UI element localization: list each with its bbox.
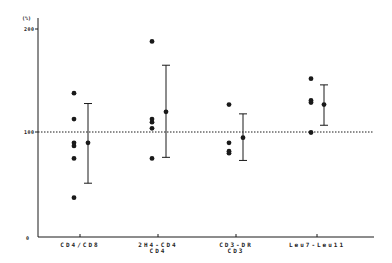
y-tick-label-0: 0 bbox=[26, 235, 30, 241]
category-label-cd3-dr-denominator: CD3 bbox=[228, 247, 245, 254]
data-point bbox=[227, 102, 232, 107]
data-point bbox=[150, 120, 155, 125]
data-point bbox=[72, 91, 77, 96]
y-tick-label-200: 200 bbox=[24, 26, 35, 32]
error-bar bbox=[239, 114, 247, 161]
mean-point bbox=[241, 135, 246, 140]
mean-point bbox=[164, 109, 169, 114]
error-bars bbox=[84, 65, 328, 183]
category-label-leu7-leu11: Leu7-Leu11 bbox=[289, 241, 345, 248]
data-point bbox=[150, 156, 155, 161]
category-label-2h4-cd4-denominator: CD4 bbox=[150, 247, 167, 254]
data-point bbox=[309, 100, 314, 105]
mean-point bbox=[86, 140, 91, 145]
data-points bbox=[72, 39, 314, 200]
data-point bbox=[72, 117, 77, 122]
mean-point bbox=[322, 102, 327, 107]
data-point bbox=[227, 140, 232, 145]
chart: (%) 200 100 0 CD4/CD8 2H4-CD4 CD4 CD3-DR… bbox=[0, 0, 392, 263]
data-point bbox=[150, 126, 155, 131]
data-point bbox=[227, 151, 232, 156]
data-point bbox=[72, 156, 77, 161]
error-bar bbox=[320, 85, 328, 125]
data-point bbox=[72, 195, 77, 200]
data-point bbox=[72, 144, 77, 149]
y-axis-unit: (%) bbox=[22, 15, 31, 21]
error-bar bbox=[84, 104, 92, 184]
data-point bbox=[309, 130, 314, 135]
data-point bbox=[309, 76, 314, 81]
y-tick-label-100: 100 bbox=[24, 129, 35, 135]
category-label-cd4-cd8: CD4/CD8 bbox=[60, 241, 99, 248]
category-labels: CD4/CD8 2H4-CD4 CD4 CD3-DR CD3 Leu7-Leu1… bbox=[60, 241, 345, 254]
data-point bbox=[150, 39, 155, 44]
error-bar bbox=[162, 65, 170, 157]
